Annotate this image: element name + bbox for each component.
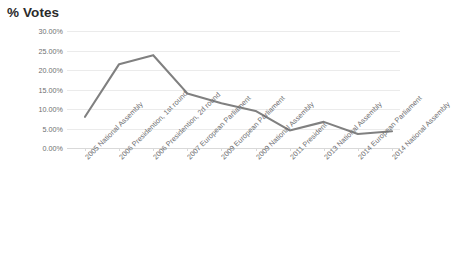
y-axis-tick-label: 20.00% [0, 66, 63, 75]
series-line-votes [67, 31, 400, 148]
y-axis-tick-label: 30.00% [0, 27, 63, 36]
gridline [67, 148, 400, 149]
y-axis-tick-label: 25.00% [0, 46, 63, 55]
plot-area [67, 31, 400, 148]
y-axis-tick-label: 0.00% [0, 144, 63, 153]
y-axis-tick-label: 15.00% [0, 85, 63, 94]
y-axis-tick-label: 5.00% [0, 124, 63, 133]
y-axis-tick-label: 10.00% [0, 105, 63, 114]
chart-title: % Votes [7, 5, 59, 20]
